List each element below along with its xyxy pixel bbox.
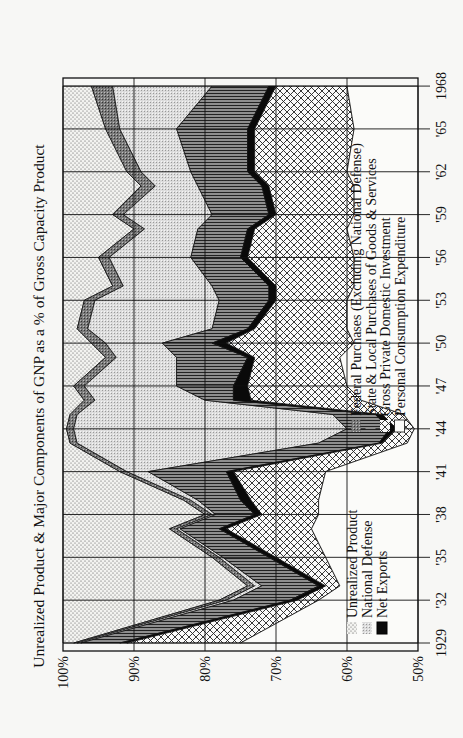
year-tick-label: '56 <box>434 249 449 266</box>
percent-tick-label: 60% <box>340 656 355 682</box>
year-tick-label: '47 <box>434 378 449 395</box>
year-tick-label: '44 <box>434 421 449 438</box>
year-tick-label: '53 <box>434 292 449 309</box>
legend-label: Personal Consumption Expenditure <box>393 217 408 416</box>
legend-swatch <box>347 622 357 634</box>
year-tick-label: '50 <box>434 335 449 352</box>
year-tick-label: '32 <box>434 592 449 609</box>
legend-label: State & Local Purchases of Goods & Servi… <box>364 158 379 416</box>
percent-tick-label: 90% <box>127 656 142 682</box>
year-tick-label: '59 <box>434 206 449 223</box>
percent-tick-label: 70% <box>269 656 284 682</box>
year-tick-label: '41 <box>434 463 449 480</box>
year-tick-label: 1929 <box>434 629 449 657</box>
year-tick-label: '38 <box>434 506 449 523</box>
legend-swatch <box>351 420 361 432</box>
legend-swatch <box>366 420 376 432</box>
percent-axis: 100%90%80%70%60%50% <box>56 656 426 689</box>
year-tick-label: '62 <box>434 163 449 180</box>
year-tick-label: '65 <box>434 121 449 138</box>
chart-title: Unrealized Product & Major Components of… <box>30 144 47 668</box>
legend-swatch <box>380 420 390 432</box>
year-tick-label: 1968 <box>434 72 449 100</box>
percent-tick-label: 80% <box>198 656 213 682</box>
year-axis: 1929'32'35'38'41'44'47'50'53'56'59'62'65… <box>434 72 449 657</box>
legend-label: Unrealized Product <box>345 509 360 618</box>
year-tick-label: '35 <box>434 549 449 566</box>
legend-swatch <box>395 420 405 432</box>
percent-tick-label: 100% <box>56 656 71 689</box>
legend-label: National Defense <box>360 520 375 618</box>
legend-label: Net Exports <box>375 551 390 618</box>
legend-label: Gross Private Domestic Investment <box>378 217 393 416</box>
percent-tick-label: 50% <box>411 656 426 682</box>
gnp-stacked-area-chart: 100%90%80%70%60%50% 1929'32'35'38'41'44'… <box>0 0 463 738</box>
legend-swatch <box>377 622 387 634</box>
legend-swatch <box>362 622 372 634</box>
chart-page: 100%90%80%70%60%50% 1929'32'35'38'41'44'… <box>0 0 463 738</box>
